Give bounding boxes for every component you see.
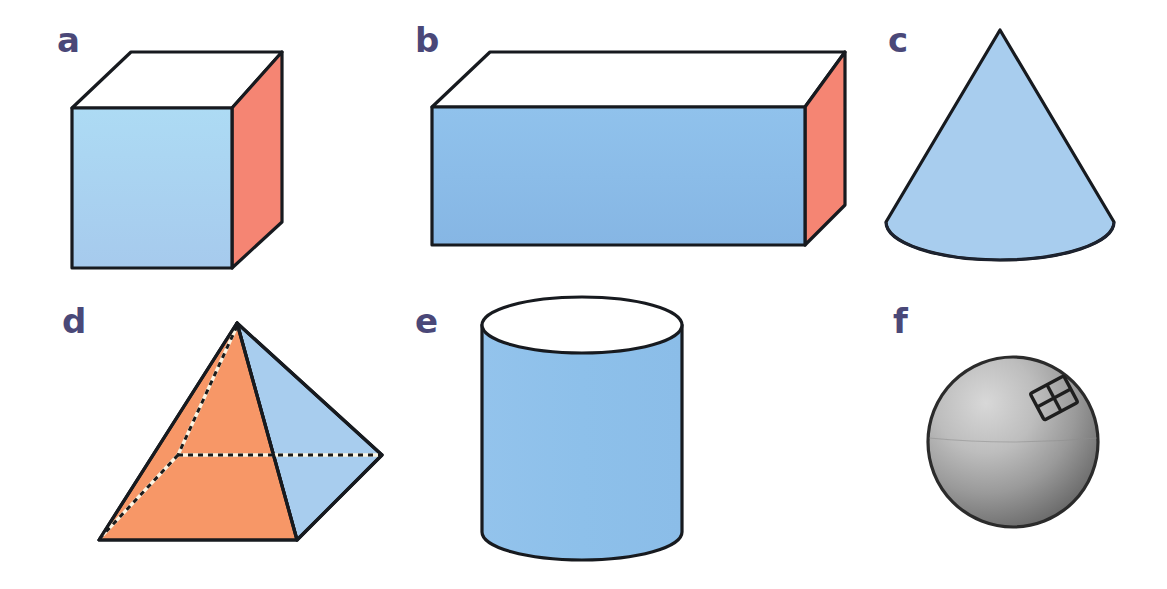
- panel-label-f: f: [893, 301, 909, 341]
- panel-a-cube: a: [57, 20, 282, 268]
- prism-front-face: [432, 107, 805, 245]
- panel-c-cone: c: [886, 20, 1114, 260]
- cylinder-top-face: [482, 297, 682, 353]
- panel-label-e: e: [415, 301, 438, 341]
- solids-illustration: a b c: [0, 0, 1167, 589]
- cylinder-body: [482, 325, 682, 560]
- panel-b-rectangular-prism: b: [415, 20, 845, 245]
- panel-e-cylinder: e: [415, 297, 682, 560]
- cone-body: [886, 30, 1114, 260]
- panel-label-a: a: [57, 20, 80, 60]
- geometric-solids-figure: a b c: [0, 0, 1167, 589]
- cube-front-face: [72, 108, 232, 268]
- panel-d-square-pyramid: d: [62, 301, 382, 540]
- panel-label-b: b: [415, 20, 439, 60]
- panel-label-c: c: [888, 20, 908, 60]
- panel-label-d: d: [62, 301, 86, 341]
- prism-top-face: [432, 52, 845, 107]
- panel-f-sphere: f: [893, 301, 1098, 527]
